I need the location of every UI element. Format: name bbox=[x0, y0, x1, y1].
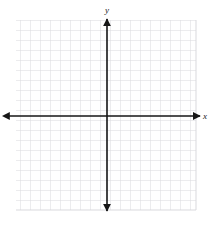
x-axis-label: x bbox=[202, 111, 207, 121]
grid-lines bbox=[16, 20, 196, 210]
coordinate-plane-canvas: x y bbox=[0, 0, 215, 227]
coordinate-grid-figure: x y bbox=[0, 0, 215, 227]
y-axis-label: y bbox=[104, 5, 109, 15]
